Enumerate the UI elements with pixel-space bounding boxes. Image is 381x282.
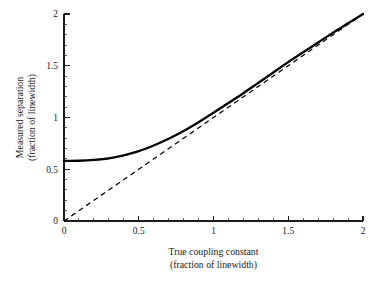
y-tick-label: 1.5 (46, 61, 58, 71)
y-tick-label: 0 (53, 216, 58, 226)
y-tick-label: 0.5 (46, 165, 58, 175)
y-tick-label: 1 (53, 113, 58, 123)
x-axis-title: True coupling constant (fraction of line… (169, 246, 259, 271)
x-tick-label: 1 (211, 226, 216, 236)
x-axis-tick-labels: 00.511.52 (62, 226, 366, 236)
y-tick-label: 2 (53, 9, 58, 19)
x-axis-title-line2: (fraction of linewidth) (170, 259, 257, 271)
x-tick-label: 1.5 (282, 226, 294, 236)
x-axis-title-line1: True coupling constant (169, 246, 259, 257)
series-group (64, 14, 363, 221)
y-axis-tick-labels: 00.511.52 (46, 9, 58, 226)
x-tick-label: 0 (62, 226, 67, 236)
x-tick-label: 2 (361, 226, 366, 236)
plot-canvas: 00.511.52 00.511.52 True coupling consta… (0, 0, 381, 282)
chart-figure: 00.511.52 00.511.52 True coupling consta… (0, 0, 381, 282)
y-axis-title-line2: (fraction of linewidth) (26, 74, 38, 161)
y-axis-title: Measured separation (fraction of linewid… (14, 74, 38, 161)
x-tick-label: 0.5 (133, 226, 145, 236)
series-measured-separation-curve (64, 14, 363, 161)
y-axis-title-line1: Measured separation (14, 77, 25, 158)
series-identity-reference-line (64, 14, 363, 221)
